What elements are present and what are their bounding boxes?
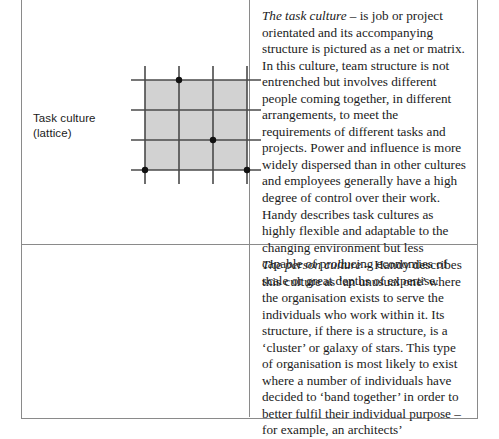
person-culture-body: – Handy describes this culture as ‘an un… — [262, 257, 462, 439]
table-cell-task-label: Task culture (lattice) — [22, 0, 250, 244]
table-row-person-culture: Person culture (cluster) — [22, 245, 477, 417]
task-culture-lead: The task culture — [262, 8, 346, 23]
table-cell-task-text: The task culture – is job or project ori… — [250, 0, 477, 244]
lattice-diagram — [131, 66, 265, 188]
person-culture-paragraph: The person culture – Handy describes thi… — [262, 255, 467, 439]
culture-types-table: Task culture (lattice) — [21, 0, 478, 419]
table-cell-person-label: Person culture (cluster) — [22, 245, 250, 417]
table-cell-person-text: The person culture – Handy describes thi… — [250, 245, 477, 417]
person-culture-lead: The person culture — [262, 257, 361, 272]
table-row-task-culture: Task culture (lattice) — [22, 0, 477, 245]
page-root: Task culture (lattice) — [0, 0, 499, 439]
